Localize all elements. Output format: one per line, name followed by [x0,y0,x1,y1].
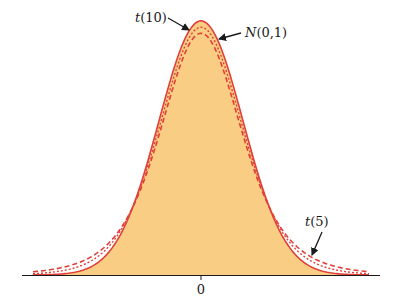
t5-label-df: (5) [310,214,328,229]
normal-area-fill [33,21,369,275]
normal-label-n: N [244,25,257,40]
arrow-t10 [168,18,189,30]
annotation-t5-label: t(5) [305,214,329,229]
annotation-t10-label: t(10) [135,10,167,25]
x-tick-label-zero: 0 [197,282,205,297]
t10-label-df: (10) [140,10,167,25]
density-chart: 0 t(10) N(0,1) t(5) [0,0,403,307]
arrow-t5 [312,232,322,255]
arrow-normal [219,33,241,39]
annotation-normal-label: N(0,1) [244,25,287,40]
normal-label-params: (0,1) [256,25,287,40]
